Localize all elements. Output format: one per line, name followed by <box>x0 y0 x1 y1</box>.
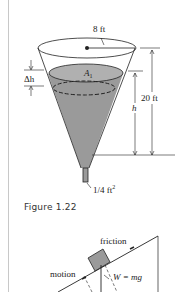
motion-label: motion <box>50 269 76 279</box>
weight-label: W = mg <box>113 272 143 282</box>
height-total-label: 20 ft <box>141 93 158 103</box>
delta-h-label: Δh <box>24 74 35 84</box>
outlet-area-label: 1/4 ft2 <box>93 184 115 195</box>
funnel-figure: 8 ft A1 Δh 20 ft h 1/4 ft2 friction moti… <box>0 0 175 292</box>
height-h-label: h <box>132 103 137 113</box>
radius-label: 8 ft <box>93 24 106 34</box>
figure-caption: Figure 1.22 <box>24 202 77 212</box>
friction-label: friction <box>100 236 127 246</box>
